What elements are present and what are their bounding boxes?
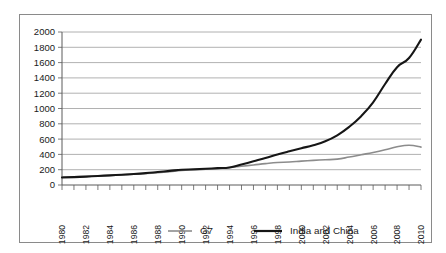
y-tick-label: 600	[39, 134, 55, 145]
x-tick-label: 1986	[129, 225, 139, 244]
y-tick-label: 1000	[34, 103, 55, 114]
y-tick-label: 200	[39, 164, 55, 175]
x-tick-label: 1994	[225, 225, 235, 244]
x-tick-label: 2010	[416, 225, 426, 244]
y-tick-label: 1400	[34, 72, 55, 83]
x-tick-label: 1996	[249, 225, 259, 244]
y-axis-tick-labels: 0200400600800100012001400160018002000	[34, 26, 62, 190]
y-tick-label: 1600	[34, 57, 55, 68]
x-tick-label: 1980	[57, 225, 67, 244]
y-tick-label: 1200	[34, 88, 55, 99]
gridlines	[62, 32, 421, 170]
y-tick-label: 800	[39, 118, 55, 129]
y-tick-label: 2000	[34, 26, 55, 37]
x-tick-label: 1984	[105, 225, 115, 244]
y-tick-label: 1800	[34, 42, 55, 53]
x-tick-label: 1988	[153, 225, 163, 244]
x-tick-label: 2008	[392, 225, 402, 244]
chart-figure: 0200400600800100012001400160018002000 19…	[0, 0, 446, 253]
x-axis-tick-labels: 1980198219841986198819901992199419961998…	[57, 225, 426, 244]
y-tick-label: 400	[39, 149, 55, 160]
x-tick-label: 1982	[81, 225, 91, 244]
x-tick-label: 2006	[369, 225, 379, 244]
line-chart: 0200400600800100012001400160018002000 19…	[0, 0, 446, 253]
series-line-g7	[62, 145, 421, 177]
legend-label-g7: G7	[200, 225, 213, 236]
legend-label-india-and-china: India and China	[290, 225, 359, 236]
x-axis-tick-marks	[62, 185, 421, 190]
y-tick-label: 0	[50, 179, 55, 190]
x-tick-label: 1998	[273, 225, 283, 244]
x-tick-label: 1990	[177, 225, 187, 244]
chart-legend: G7India and China	[168, 225, 359, 236]
